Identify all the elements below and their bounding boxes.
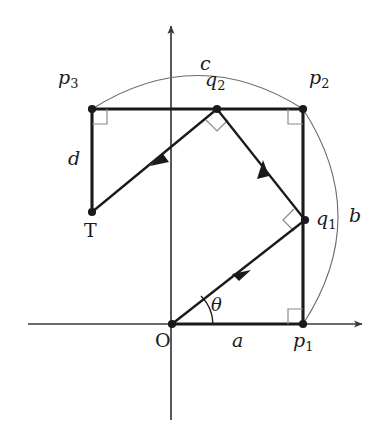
arcs-group <box>92 76 338 325</box>
segment-label-b: b <box>349 206 361 225</box>
ray-O-to-q1 <box>172 220 305 324</box>
ray-q1-to-q2 <box>217 109 305 220</box>
geometry-figure: p3 p2 q2 q1 p1 O T a b c d θ <box>0 0 387 443</box>
segment-label-d: d <box>68 149 80 168</box>
right-angle-mark-q2 <box>206 120 228 131</box>
right-angle-marks-group <box>92 109 303 324</box>
right-angle-mark-q1 <box>283 209 294 231</box>
arc-c-top <box>92 76 303 110</box>
point-label-p3: p3 <box>58 68 78 87</box>
point-dot-p2 <box>299 105 307 113</box>
point-dot-q2 <box>213 105 221 113</box>
rectangle-group <box>92 109 303 324</box>
point-label-p2: p2 <box>309 68 329 87</box>
point-label-p1: p1 <box>293 331 313 350</box>
point-label-q1: q1 <box>316 209 336 228</box>
angle-label-theta: θ <box>211 296 222 314</box>
segment-label-a: a <box>232 331 243 350</box>
ray-path-group <box>92 109 305 324</box>
point-dot-p1 <box>299 320 307 328</box>
ray-q2-to-T <box>92 109 217 212</box>
point-dot-T <box>88 208 96 216</box>
point-dot-O <box>168 320 176 328</box>
ray-arrowhead-O-q1 <box>232 270 251 281</box>
vertex-dots-group <box>88 105 309 328</box>
point-dot-p3 <box>88 105 96 113</box>
point-label-T: T <box>84 221 97 240</box>
point-dot-q1 <box>301 216 309 224</box>
segment-label-c: c <box>200 54 211 73</box>
point-label-O: O <box>155 331 171 350</box>
